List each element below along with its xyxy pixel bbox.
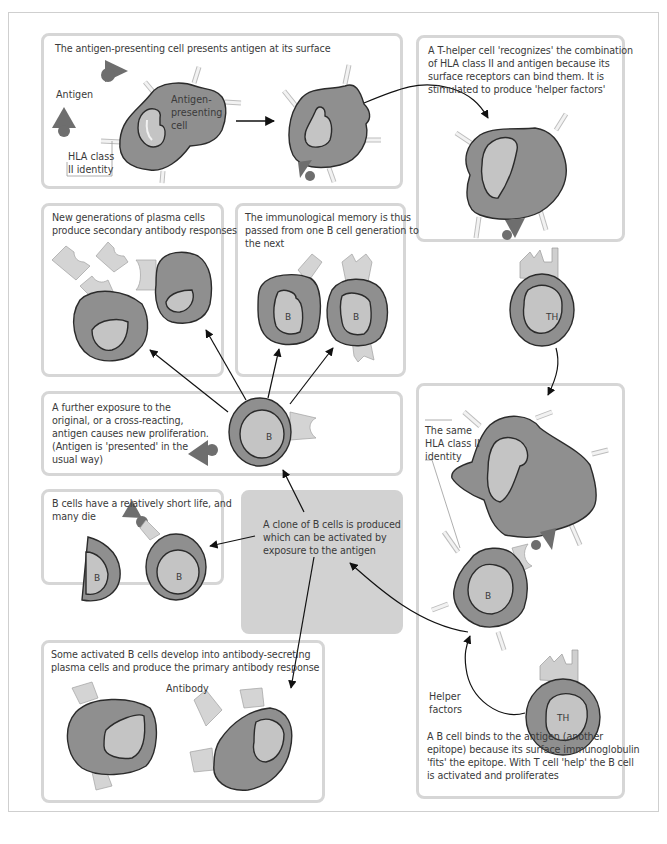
label-same-hla-1: The same [425,424,472,437]
label-b-memory-2: B [353,311,359,324]
caption-plasma-secondary-2: produce secondary antibody responses [52,224,237,237]
caption-memory-3: the next [245,237,284,250]
caption-memory-1: The immunological memory is thus [245,211,411,224]
caption-memory-2: passed from one B cell generation to [245,224,419,237]
label-same-hla-3: identity [425,450,462,463]
caption-clone-3: exposure to the antigen [263,544,376,557]
label-th-2: TH [557,712,569,725]
label-th-1: TH [546,311,558,324]
caption-further-exposure-1: A further exposure to the [52,401,171,414]
caption-plasma-secondary-1: New generations of plasma cells [52,211,205,224]
caption-further-exposure-4: (Antigen is 'presented' in the [52,440,188,453]
caption-further-exposure-2: original, or a cross-reacting, [52,414,184,427]
label-antigen: Antigen [56,88,93,101]
caption-t-helper-3: surface receptors can bind them. It is [428,70,604,83]
caption-t-helper-1: A T-helper cell 'recognizes' the combina… [428,44,633,57]
caption-b-binding-1: A B cell binds to the antigen (another [427,730,603,743]
caption-clone-1: A clone of B cells is produced [263,518,401,531]
label-apc-line3: cell [171,119,188,132]
caption-b-binding-2: epitope) because its surface immunoglobu… [427,743,640,756]
caption-primary-2: plasma cells and produce the primary ant… [51,661,319,674]
label-helper-1: Helper [429,690,461,703]
label-b-short-life: B [176,571,182,584]
label-same-hla-2: HLA class II [425,437,480,450]
caption-further-exposure-3: antigen causes new proliferation. [52,427,209,440]
caption-clone-2: which can be activated by [263,531,387,544]
caption-short-life-1: B cells have a relatively short life, an… [52,497,232,510]
label-hla-line2: II identity [68,163,113,176]
label-b-memory-1: B [285,311,291,324]
caption-b-binding-4: is activated and proliferates [427,769,559,782]
label-apc-line1: Antigen- [171,93,212,106]
caption-further-exposure-5: usual way) [52,453,103,466]
label-b-binding: B [485,590,491,603]
caption-short-life-2: many die [52,510,96,523]
label-b-central: B [266,431,272,444]
label-antibody: Antibody [166,682,209,695]
panel-clone [241,490,403,634]
caption-b-binding-3: 'fits' the epitope. With T cell 'help' t… [427,756,634,769]
label-hla-line1: HLA class [68,150,114,163]
label-apc-line2: presenting [171,106,222,119]
caption-antigen-presenting: The antigen-presenting cell presents ant… [55,42,330,55]
caption-primary-1: Some activated B cells develop into anti… [51,648,310,661]
label-helper-2: factors [429,703,462,716]
caption-t-helper-2: of HLA class II and antigen because its [428,57,610,70]
caption-t-helper-4: stimulated to produce 'helper factors' [428,83,605,96]
label-b-dying: B [94,572,100,585]
